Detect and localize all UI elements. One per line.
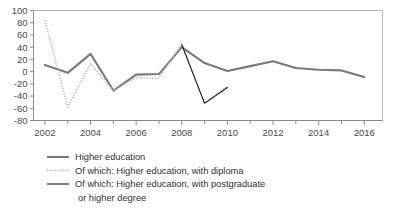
y-axis-tick-labels: 100806040200-20-40-60-80 — [12, 5, 28, 126]
x-tick-label: 2010 — [217, 127, 238, 138]
y-tick-label: -40 — [14, 90, 28, 101]
x-tick-label: 2004 — [80, 127, 101, 138]
y-axis-ticks — [30, 11, 34, 121]
x-tick-label: 2006 — [126, 127, 147, 138]
x-axis-tick-labels: 20022004200620082010201220142016 — [34, 127, 374, 138]
legend-item-label: Of which: Higher education, with diploma — [75, 166, 244, 176]
x-tick-label: 2008 — [171, 127, 192, 138]
x-tick-label: 2002 — [34, 127, 55, 138]
x-tick-label: 2016 — [354, 127, 375, 138]
line-chart: 100806040200-20-40-60-80 200220042006200… — [0, 0, 402, 211]
chart-legend: Higher educationOf which: Higher educati… — [47, 152, 265, 203]
y-tick-label: 20 — [17, 54, 28, 65]
y-tick-label: -60 — [14, 103, 28, 114]
legend-item-label: or higher degree — [78, 193, 146, 203]
y-tick-label: -20 — [14, 78, 28, 89]
x-axis-ticks — [45, 121, 364, 126]
y-tick-label: 40 — [17, 42, 28, 53]
plot-area-background — [34, 11, 383, 121]
y-tick-label: 60 — [17, 29, 28, 40]
y-tick-label: 100 — [12, 5, 28, 16]
chart-container: 100806040200-20-40-60-80 200220042006200… — [0, 0, 402, 211]
y-tick-label: -80 — [14, 115, 28, 126]
legend-item-label: Higher education — [75, 152, 145, 162]
y-tick-label: 80 — [17, 17, 28, 28]
x-tick-label: 2012 — [262, 127, 283, 138]
x-tick-label: 2014 — [308, 127, 329, 138]
y-tick-label: 0 — [22, 66, 27, 77]
legend-item-label: Of which: Higher education, with postgra… — [75, 179, 265, 189]
